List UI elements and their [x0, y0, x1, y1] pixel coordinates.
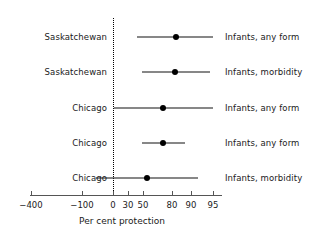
x-tick-3	[128, 191, 129, 195]
x-tick-0	[31, 191, 32, 195]
x-tick-2	[113, 191, 114, 195]
x-axis-title: Per cent protection	[79, 216, 165, 226]
x-tick-label-6: 90	[186, 200, 197, 210]
point-estimate-2	[160, 105, 166, 111]
x-axis-line	[30, 195, 222, 196]
forest-plot: SaskatchewanInfants, any formSaskatchewa…	[0, 0, 321, 241]
x-tick-label-0: −400	[19, 200, 42, 210]
outcome-label-3: Infants, any form	[225, 138, 300, 148]
x-tick-label-7: 95	[208, 200, 219, 210]
x-tick-1	[82, 191, 83, 195]
x-tick-6	[191, 191, 192, 195]
point-estimate-0	[173, 34, 179, 40]
x-tick-label-5: 80	[167, 200, 178, 210]
study-label-3: Chicago	[72, 138, 107, 148]
x-tick-label-3: 30	[123, 200, 134, 210]
outcome-label-2: Infants, any form	[225, 103, 300, 113]
outcome-label-4: Infants, morbidity	[225, 173, 302, 183]
x-tick-label-1: −100	[70, 200, 93, 210]
x-tick-label-4: 50	[138, 200, 149, 210]
study-label-0: Saskatchewan	[45, 32, 107, 42]
outcome-label-1: Infants, morbidity	[225, 67, 302, 77]
x-tick-5	[172, 191, 173, 195]
point-estimate-3	[160, 140, 166, 146]
point-estimate-1	[172, 69, 178, 75]
study-label-2: Chicago	[72, 103, 107, 113]
study-label-1: Saskatchewan	[45, 67, 107, 77]
x-tick-label-2: 0	[110, 200, 115, 210]
zero-reference-line	[113, 18, 114, 195]
outcome-label-0: Infants, any form	[225, 32, 300, 42]
x-tick-7	[213, 191, 214, 195]
point-estimate-4	[144, 175, 150, 181]
x-tick-4	[143, 191, 144, 195]
